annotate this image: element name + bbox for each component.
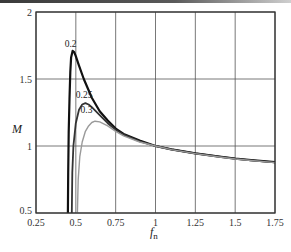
x-tick-label: 1.25: [187, 217, 205, 228]
curve-label: 0.25: [76, 90, 93, 100]
y-tick-labels: 0.511.52: [20, 7, 33, 216]
x-tick-label: 0.5: [70, 217, 83, 228]
y-tick-label: 1.5: [20, 74, 33, 85]
gain-curves: [68, 51, 275, 213]
y-tick-label: 0.5: [20, 205, 33, 216]
curve-label: 0.3: [81, 105, 93, 115]
curve-0.2: [68, 51, 275, 213]
y-axis-label: M: [11, 122, 23, 136]
x-tick-label: 1.5: [229, 217, 242, 228]
curve-0.25: [72, 103, 275, 213]
gain-chart: 0.250.50.7511.251.51.75 0.511.52 0.20.25…: [0, 0, 291, 252]
x-tick-label: 0.25: [27, 217, 45, 228]
x-tick-label: 0.75: [107, 217, 125, 228]
y-tick-label: 1: [27, 141, 32, 152]
x-tick-labels: 0.250.50.7511.251.51.75: [27, 217, 284, 228]
curve-label: 0.2: [65, 39, 77, 49]
y-tick-label: 2: [27, 7, 32, 18]
curve-0.3: [77, 121, 275, 213]
x-tick-label: 1: [153, 217, 158, 228]
x-tick-label: 1.75: [266, 217, 284, 228]
